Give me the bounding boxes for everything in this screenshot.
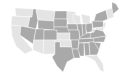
state-mo	[68, 30, 80, 40]
state-mt	[36, 9, 55, 21]
state-mi	[81, 14, 90, 24]
state-ut	[34, 29, 44, 40]
state-ia	[67, 24, 78, 30]
state-wa	[15, 8, 33, 17]
state-ks	[57, 33, 70, 40]
state-me	[112, 2, 119, 14]
state-nm	[43, 40, 55, 54]
state-nd	[54, 11, 67, 19]
state-fl	[85, 55, 104, 72]
state-ny	[94, 10, 108, 21]
state-sd	[54, 19, 67, 27]
state-wy	[38, 20, 54, 30]
us-choropleth-map	[0, 0, 130, 82]
state-az	[33, 40, 44, 54]
state-co	[44, 30, 57, 40]
state-pa	[92, 21, 104, 28]
